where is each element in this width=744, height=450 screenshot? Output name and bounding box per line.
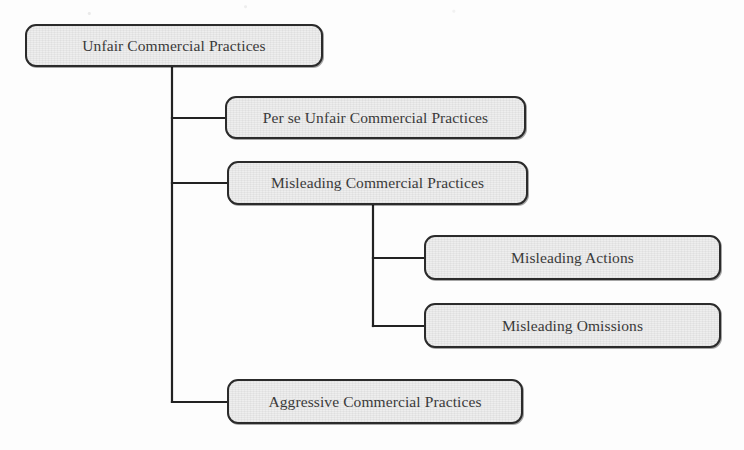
diagram-canvas: Unfair Commercial Practices Per se Unfai… (0, 0, 744, 450)
node-misleading-actions[interactable]: Misleading Actions (424, 235, 721, 280)
node-label: Misleading Omissions (496, 316, 649, 334)
node-label: Misleading Actions (505, 248, 640, 266)
node-misleading-omissions[interactable]: Misleading Omissions (424, 303, 721, 348)
node-misleading-commercial-practices[interactable]: Misleading Commercial Practices (227, 161, 528, 205)
node-per-se-unfair-commercial-practices[interactable]: Per se Unfair Commercial Practices (225, 96, 526, 139)
node-label: Unfair Commercial Practices (76, 36, 271, 54)
node-aggressive-commercial-practices[interactable]: Aggressive Commercial Practices (227, 379, 523, 424)
node-label: Aggressive Commercial Practices (262, 392, 487, 410)
node-label: Per se Unfair Commercial Practices (257, 108, 495, 126)
node-label: Misleading Commercial Practices (265, 174, 490, 192)
node-unfair-commercial-practices[interactable]: Unfair Commercial Practices (25, 24, 323, 67)
